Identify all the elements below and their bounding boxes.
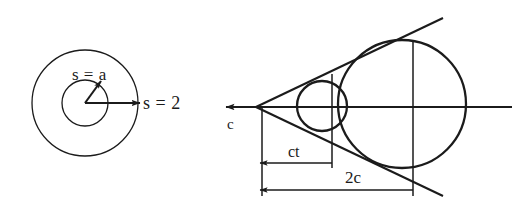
geometry-figure: s = a s = 2 c ct 2c (0, 0, 530, 212)
upper-tangent-line (256, 18, 443, 107)
right-diagram-group (226, 18, 512, 196)
outer-radius-label: s = 2 (143, 94, 181, 112)
velocity-label: c (227, 117, 234, 132)
dimension-label-ct: ct (288, 144, 300, 160)
large-circle (338, 40, 466, 168)
figure-canvas (0, 0, 530, 212)
inner-radius-label: s = a (72, 66, 107, 83)
dimension-label-2c: 2c (345, 169, 361, 186)
inner-radius-arrow (85, 81, 101, 103)
